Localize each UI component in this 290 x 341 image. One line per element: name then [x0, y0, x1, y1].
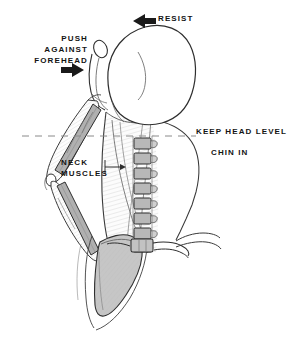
neck-muscles-label: NECK MUSCLES — [61, 157, 108, 179]
neck-exercise-figure: RESIST PUSH AGAINST FOREHEAD KEEP HEAD L… — [0, 0, 290, 341]
push-against-forehead-label: PUSH AGAINST FOREHEAD — [6, 33, 88, 66]
keep-head-level-label: KEEP HEAD LEVEL — [196, 126, 287, 137]
resist-label: RESIST — [158, 13, 194, 24]
chin-in-label: CHIN IN — [211, 147, 248, 158]
vertebra-body — [131, 239, 153, 252]
